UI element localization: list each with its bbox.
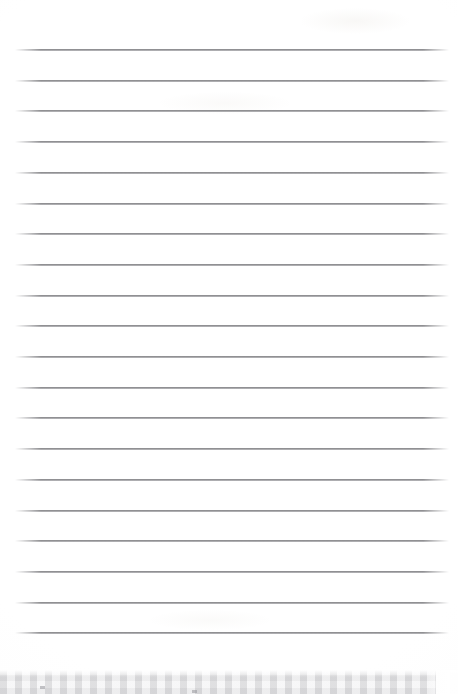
rule-line — [15, 110, 449, 112]
rule-line — [15, 203, 449, 205]
rule-line — [15, 264, 449, 266]
rule-line — [15, 479, 449, 481]
band-speck-1 — [40, 686, 45, 689]
rule-line — [15, 325, 449, 327]
rule-line — [15, 356, 449, 358]
rule-line — [15, 387, 449, 389]
rule-line — [15, 80, 449, 82]
rule-line — [15, 632, 449, 634]
rule-line — [15, 571, 449, 573]
rule-line — [15, 141, 449, 143]
rule-line — [15, 49, 449, 51]
rule-line — [15, 448, 449, 450]
rule-line — [15, 417, 449, 419]
band-speck-2 — [192, 690, 197, 693]
scanned-page — [0, 0, 458, 694]
rule-line — [15, 602, 449, 604]
ruled-lines-group — [0, 0, 458, 694]
rule-line — [15, 172, 449, 174]
rule-line — [15, 540, 449, 542]
rule-line — [15, 295, 449, 297]
scanner-edge-texture-band — [0, 670, 436, 694]
rule-line — [15, 233, 449, 235]
rule-line — [15, 510, 449, 512]
